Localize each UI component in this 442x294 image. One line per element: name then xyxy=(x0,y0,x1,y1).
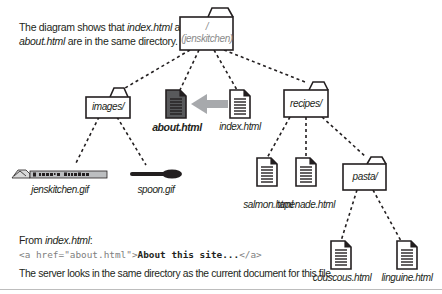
about-document-icon xyxy=(166,90,186,118)
code-close-tag: </a> xyxy=(239,249,262,260)
index-document-icon xyxy=(230,90,250,118)
tapenade-document-icon xyxy=(296,158,316,186)
about-file-label: about.html xyxy=(152,121,202,133)
explanation-text: The server looks in the same directory a… xyxy=(19,268,333,279)
tapenade-file-label: tapenade.html xyxy=(277,199,335,210)
salmon-document-icon xyxy=(257,158,277,186)
couscous-document-icon xyxy=(331,241,351,269)
code-open-tag: <a href="about.html"> xyxy=(19,249,138,260)
spoon-gif-label: spoon.gif xyxy=(138,184,175,195)
from-label: From index.html: xyxy=(19,234,92,246)
jenskitchen-logo-image xyxy=(12,170,107,178)
linguine-file-label: linguine.html xyxy=(382,272,433,283)
linguine-document-icon xyxy=(397,241,417,269)
spoon-image xyxy=(130,170,182,179)
root-folder-label: / (jenskitchen) xyxy=(181,21,233,45)
recipes-folder-label: recipes/ xyxy=(290,98,322,110)
index-file-label: index.html xyxy=(219,121,261,132)
jenskitchen-gif-label: jenskitchen.gif xyxy=(31,184,88,195)
pasta-folder-label: pasta/ xyxy=(353,171,378,183)
divider xyxy=(0,289,442,290)
tree-connectors xyxy=(75,50,401,241)
link-arrow-icon xyxy=(191,94,228,114)
code-link-text: About this site... xyxy=(138,249,240,260)
images-folder-label: images/ xyxy=(92,101,124,113)
code-example: <a href="about.html">About this site...<… xyxy=(19,249,262,260)
